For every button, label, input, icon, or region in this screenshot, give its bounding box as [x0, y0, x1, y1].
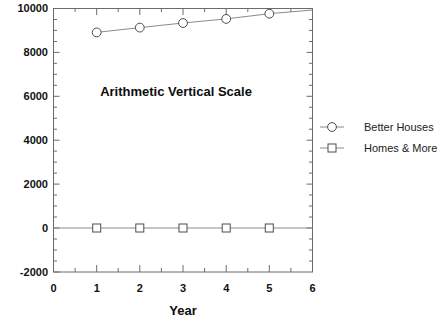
y-tick-label-2000: 2000	[24, 178, 48, 190]
x-tick-label-5: 5	[266, 282, 272, 294]
series-line-better-houses	[97, 10, 313, 32]
y-tick-label-6000: 6000	[24, 90, 48, 102]
data-point-marker	[135, 23, 144, 32]
y-tick-label-neg2000: -2000	[20, 266, 48, 278]
series-better-houses	[92, 9, 312, 37]
y-axis-major-ticks	[54, 9, 60, 273]
x-tick-label-4: 4	[223, 282, 230, 294]
legend-label-better-houses: Better Houses	[364, 121, 434, 133]
circle-marker-icon	[328, 123, 337, 132]
data-point-marker	[136, 224, 144, 232]
chart-figure: 10000 8000 6000 4000 2000 0 -2000	[0, 0, 440, 325]
series-homes-and-more	[54, 224, 313, 232]
data-point-marker	[179, 19, 188, 28]
y-tick-label-10000: 10000	[17, 2, 48, 14]
legend-label-homes-and-more: Homes & More	[364, 142, 437, 154]
x-tick-label-3: 3	[180, 282, 186, 294]
square-marker-icon	[328, 144, 336, 152]
y-tick-label-8000: 8000	[24, 46, 48, 58]
chart-legend: Better Houses Homes & More	[320, 121, 437, 154]
right-axis-ticks	[307, 9, 313, 262]
data-point-marker	[265, 9, 274, 18]
plot-annotation-text: Arithmetic Vertical Scale	[100, 84, 252, 99]
y-tick-label-4000: 4000	[24, 134, 48, 146]
data-point-marker	[92, 28, 101, 37]
legend-entry-better-houses[interactable]: Better Houses	[320, 121, 434, 133]
legend-entry-homes-and-more[interactable]: Homes & More	[320, 142, 437, 154]
x-tick-label-2: 2	[137, 282, 143, 294]
x-tick-label-1: 1	[94, 282, 100, 294]
line-chart-canvas: 10000 8000 6000 4000 2000 0 -2000	[0, 0, 440, 325]
x-axis-title: Year	[169, 303, 196, 318]
data-point-marker	[265, 224, 273, 232]
x-tick-label-0: 0	[50, 282, 56, 294]
data-point-marker	[179, 224, 187, 232]
y-tick-label-0: 0	[42, 222, 48, 234]
data-point-marker	[222, 15, 231, 24]
data-point-marker	[222, 224, 230, 232]
x-tick-label-6: 6	[309, 282, 315, 294]
data-point-marker	[93, 224, 101, 232]
x-axis-major-ticks	[54, 265, 313, 272]
